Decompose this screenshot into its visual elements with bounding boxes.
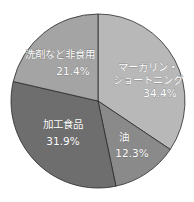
slice-category-label: 洗剤など非食用 bbox=[25, 48, 95, 60]
pie-slices bbox=[11, 14, 185, 188]
slice-value-label: 12.3% bbox=[115, 147, 148, 159]
slice-value-label: 21.4% bbox=[56, 65, 89, 77]
slice-category-label: 加工食品 bbox=[43, 118, 83, 130]
slice-category-label: マーガリン・ショートニング bbox=[113, 61, 184, 86]
pie-chart: マーガリン・ショートニング34.4%油12.3%加工食品31.9%洗剤など非食用… bbox=[0, 0, 194, 202]
slice-category-label: 油 bbox=[119, 131, 129, 143]
slice-value-label: 31.9% bbox=[46, 135, 79, 147]
slice-value-label: 34.4% bbox=[143, 87, 176, 99]
